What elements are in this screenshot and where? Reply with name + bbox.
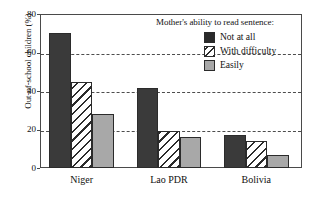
y-tick-label: 40 [0, 87, 36, 96]
y-tick-mark [37, 91, 40, 92]
bar-lao-pdr-with-difficulty [158, 131, 180, 168]
y-tick-label: 60 [0, 48, 36, 57]
legend-item-label: With difficulty [220, 46, 276, 56]
bar-bolivia-with-difficulty [246, 141, 268, 168]
bar-niger-with-difficulty [71, 82, 93, 168]
bar-chart-figure: Out-of-school children (%) 806040200 Nig… [0, 0, 311, 198]
legend-swatch-icon [204, 60, 215, 71]
x-tick-label: Bolivia [204, 174, 309, 185]
legend: Mother's ability to read sentence: Not a… [156, 17, 302, 72]
legend-swatch-icon [204, 32, 215, 43]
legend-item: With difficulty [156, 44, 302, 58]
legend-title: Mother's ability to read sentence: [156, 17, 302, 27]
legend-items: Not at allWith difficultyEasily [156, 30, 302, 72]
y-tick-mark [37, 130, 40, 131]
y-axis-title: Out-of-school children (%) [23, 0, 33, 141]
y-tick-mark [37, 168, 40, 169]
y-tick-label: 20 [0, 125, 36, 134]
legend-item-label: Easily [220, 60, 244, 70]
y-tick-label: 80 [0, 10, 36, 19]
legend-item: Easily [156, 58, 302, 72]
bar-bolivia-easily [267, 155, 289, 168]
bar-niger-not-at-all [49, 33, 71, 168]
bar-bolivia-not-at-all [224, 135, 246, 168]
y-tick-mark [37, 14, 40, 15]
legend-item: Not at all [156, 30, 302, 44]
legend-item-label: Not at all [220, 32, 255, 42]
y-tick-label: 0 [0, 164, 36, 173]
bar-niger-easily [92, 114, 114, 168]
legend-swatch-icon [204, 46, 215, 57]
bar-lao-pdr-easily [180, 137, 202, 168]
bar-lao-pdr-not-at-all [137, 88, 159, 168]
y-tick-mark [37, 53, 40, 54]
